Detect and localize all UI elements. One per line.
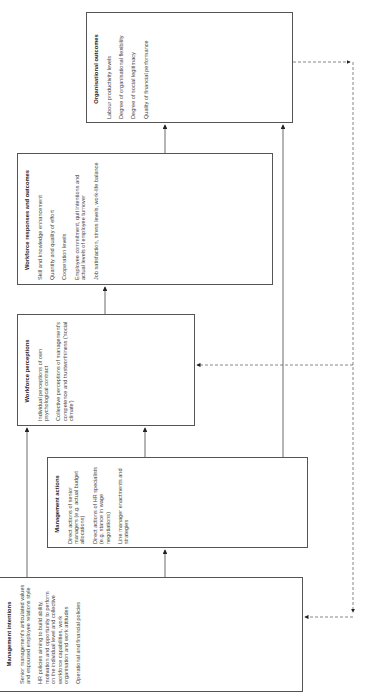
box-organisational-outcomes: Organisational outcomes Labour productiv… — [86, 12, 293, 123]
perceptions-content: Workforce perceptions Individual percept… — [24, 321, 75, 421]
box-workforce-perceptions: Workforce perceptions Individual percept… — [17, 314, 195, 426]
intentions-title: Management intentions — [6, 584, 13, 684]
actions-item: Line manager enactments and strategies — [117, 464, 130, 544]
responses-content: Workforce responses and outcomes Skill a… — [24, 160, 99, 280]
responses-item: Job satisfaction, stress levels, work-li… — [93, 160, 99, 280]
intentions-item: Operational and financial policies — [75, 584, 81, 684]
responses-title: Workforce responses and outcomes — [24, 160, 31, 280]
box-management-intentions: Management intentions Senior management'… — [0, 577, 303, 692]
perceptions-item: Collective perceptions of management's c… — [55, 321, 74, 421]
outcomes-item: Degree of organisational flexibility — [118, 19, 124, 119]
intentions-content: Management intentions Senior management'… — [6, 584, 82, 684]
responses-item: Skill and knowledge enhancement — [37, 160, 43, 280]
outcomes-item: Labour productivity levels — [106, 19, 112, 119]
box-workforce-responses: Workforce responses and outcomes Skill a… — [17, 153, 273, 285]
outcomes-title: Organisational outcomes — [93, 19, 100, 119]
responses-item: Quantity and quality of effort — [49, 160, 55, 280]
actions-item: Direct actions of senior managers (e.g. … — [67, 464, 86, 544]
actions-content: Management actions Direct actions of sen… — [54, 464, 130, 544]
outcomes-item: Quality of financial performance — [143, 19, 149, 119]
intentions-item: Senior management's articulated values a… — [19, 584, 32, 684]
box-management-actions: Management actions Direct actions of sen… — [47, 457, 308, 548]
outcomes-content: Organisational outcomes Labour productiv… — [93, 19, 155, 119]
actions-item: Direct actions of HR specialists (e.g. s… — [92, 464, 111, 544]
actions-title: Management actions — [54, 464, 61, 544]
outcomes-item: Degree of social legitimacy — [130, 19, 136, 119]
perceptions-item: Individual perceptions of own psychologi… — [37, 321, 50, 421]
responses-item: Cooperation levels — [61, 160, 67, 280]
responses-item: Employee commitment, quit intentions and… — [74, 160, 87, 280]
intentions-item: HR policies aiming to build ability, mot… — [37, 584, 69, 684]
perceptions-title: Workforce perceptions — [24, 321, 31, 421]
